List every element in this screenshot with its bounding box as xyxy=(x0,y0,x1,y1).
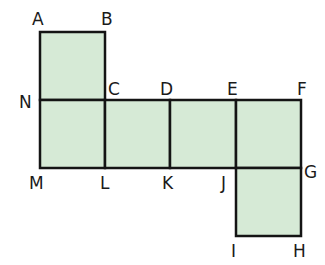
square-jghi xyxy=(236,168,301,236)
label-j: J xyxy=(220,173,226,193)
label-d: D xyxy=(160,79,173,99)
label-l: L xyxy=(100,173,110,193)
label-c: C xyxy=(108,79,120,99)
square-abcn xyxy=(40,32,105,100)
square-cdkl xyxy=(105,100,170,168)
label-a: A xyxy=(32,9,44,29)
label-n: N xyxy=(19,92,32,112)
cube-net-diagram: A B C D E F G H I J K L M N xyxy=(0,0,325,265)
square-efgj xyxy=(236,100,301,168)
label-f: F xyxy=(297,79,307,99)
square-dejk xyxy=(170,100,236,168)
label-b: B xyxy=(101,9,113,29)
label-h: H xyxy=(293,241,306,261)
label-e: E xyxy=(227,79,238,99)
label-k: K xyxy=(162,173,174,193)
label-m: M xyxy=(29,173,44,193)
label-g: G xyxy=(304,162,317,182)
label-i: I xyxy=(231,241,236,261)
square-nclm xyxy=(40,100,105,168)
